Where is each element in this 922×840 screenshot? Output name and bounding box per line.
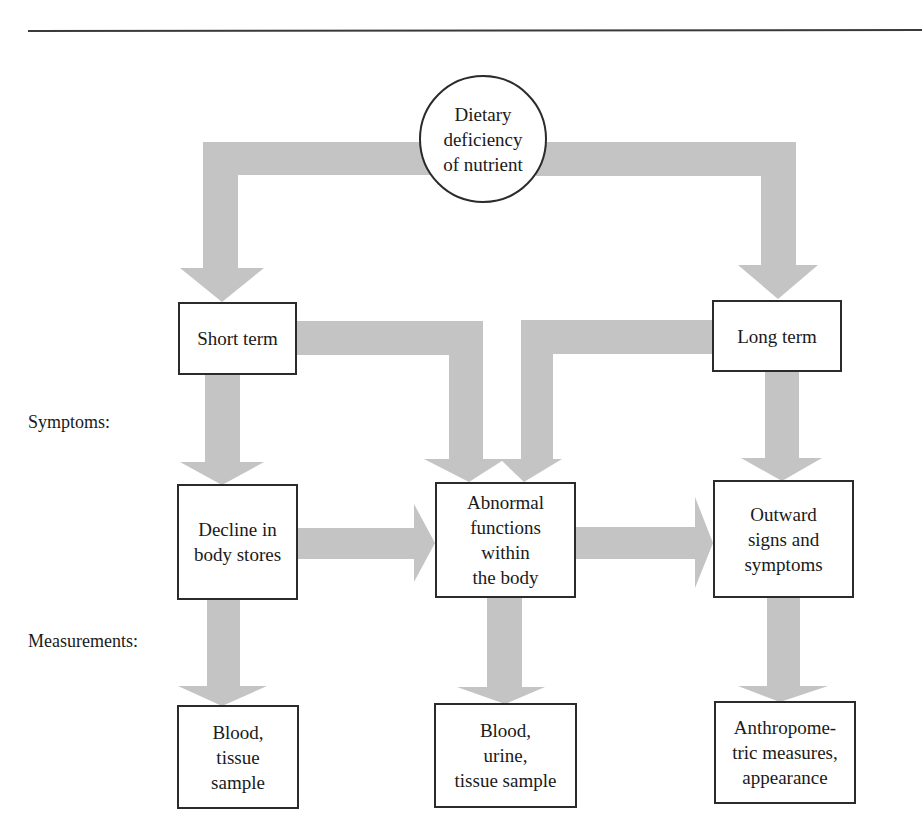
anthropometric-line-2: tric measures,: [732, 740, 838, 765]
abnormal-line-4: the body: [473, 565, 539, 590]
arrow-source-to-short-term: [180, 142, 430, 302]
abnormal-label: Abnormal functions within the body: [436, 483, 575, 597]
outward-label: Outward signs and symptoms: [714, 481, 853, 597]
blood-urine-line-2: urine,: [484, 743, 528, 768]
blood-tissue-line-3: sample: [211, 770, 265, 795]
arrow-source-to-long-term: [536, 142, 818, 299]
top-rule: [28, 30, 922, 31]
outward-line-1: Outward: [750, 502, 816, 527]
blood-tissue-line-1: Blood,: [212, 720, 263, 745]
anthropometric-label: Anthropome- tric measures, appearance: [715, 702, 855, 803]
blood-urine-line-3: tissue sample: [455, 768, 557, 793]
arrow-decline-to-blood-tissue: [178, 599, 267, 706]
anthropometric-line-1: Anthropome-: [734, 715, 836, 740]
symptoms-row-label: Symptoms:: [28, 411, 110, 433]
outward-line-3: symptoms: [744, 552, 822, 577]
arrow-long-term-to-abnormal: [500, 320, 713, 482]
blood-urine-label: Blood, urine, tissue sample: [435, 704, 576, 807]
long-term-label: Long term: [713, 301, 841, 371]
abnormal-line-1: Abnormal: [467, 490, 544, 515]
source-node-label: Dietary deficiency of nutrient: [420, 96, 546, 182]
arrow-outward-to-anthropometric: [738, 597, 828, 702]
blood-urine-line-1: Blood,: [480, 718, 531, 743]
decline-line-1: Decline in: [198, 517, 277, 542]
short-term-text: Short term: [197, 326, 278, 351]
abnormal-line-3: within: [481, 540, 530, 565]
arrow-short-term-to-decline: [180, 375, 264, 485]
abnormal-line-2: functions: [470, 515, 541, 540]
source-line-1: Dietary: [455, 102, 512, 127]
arrow-long-term-to-outward: [741, 372, 822, 481]
decline-label: Decline in body stores: [178, 485, 297, 599]
source-line-3: of nutrient: [443, 152, 523, 177]
short-term-label: Short term: [179, 303, 296, 374]
anthropometric-line-3: appearance: [742, 765, 827, 790]
arrow-abnormal-to-blood-urine: [457, 597, 545, 704]
outward-line-2: signs and: [748, 527, 819, 552]
blood-tissue-label: Blood, tissue sample: [178, 706, 298, 808]
measurements-row-label: Measurements:: [28, 630, 138, 652]
arrow-abnormal-to-outward: [575, 497, 713, 588]
arrow-decline-to-abnormal: [297, 504, 435, 582]
blood-tissue-line-2: tissue: [216, 745, 259, 770]
arrow-short-term-to-abnormal: [296, 321, 505, 482]
long-term-text: Long term: [737, 324, 817, 349]
decline-line-2: body stores: [194, 542, 281, 567]
source-line-2: deficiency: [443, 127, 522, 152]
